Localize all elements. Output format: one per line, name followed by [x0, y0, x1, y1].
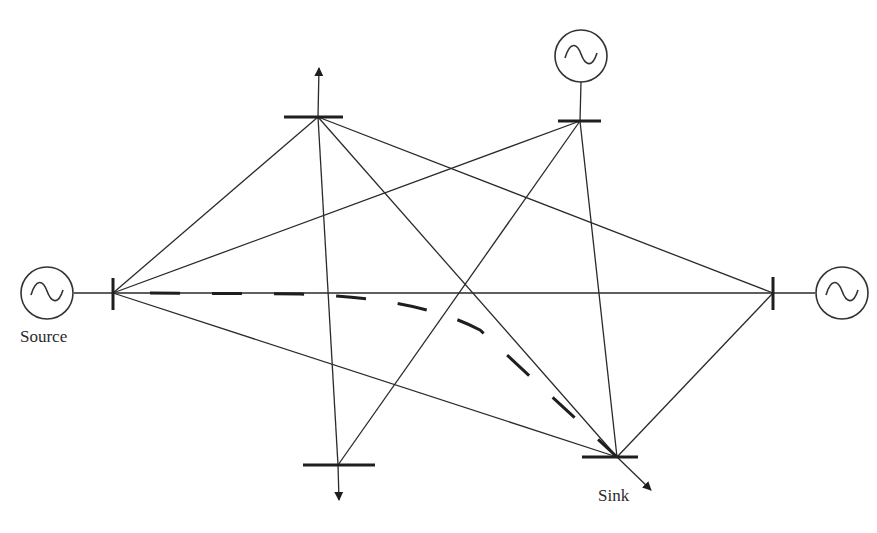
load-arrow-down-icon — [338, 465, 339, 500]
power-network-diagram — [0, 0, 877, 533]
load-arrow-up-icon — [318, 68, 319, 117]
line-c-f — [580, 121, 617, 457]
line-b-f — [318, 117, 617, 457]
load-arrows — [318, 68, 651, 500]
line-b-e — [318, 117, 338, 465]
generator-right-icon — [816, 267, 868, 319]
bus-bars — [113, 117, 773, 465]
line-d-f — [617, 293, 773, 457]
highlighted-flow-path — [150, 293, 617, 457]
line-b-d — [318, 117, 773, 293]
line-a-b — [113, 117, 318, 293]
source-label: Source — [20, 327, 67, 347]
generator-source-icon — [21, 267, 73, 319]
line-a-f — [113, 293, 617, 457]
lead-top-right-generator — [580, 82, 581, 121]
transmission-lines — [113, 117, 773, 465]
sink-label: Sink — [598, 486, 629, 506]
line-a-c — [113, 121, 580, 293]
generator-top-right-icon — [555, 30, 607, 82]
